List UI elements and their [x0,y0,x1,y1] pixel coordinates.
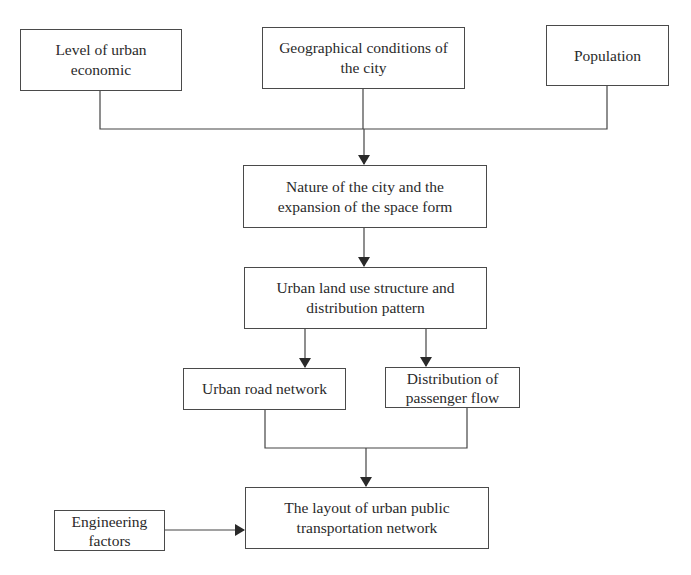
node-urban-road-network: Urban road network [183,368,346,410]
node-label: Urban road network [202,379,327,399]
node-label: The layout of urban public transportatio… [252,498,482,538]
node-nature-of-city: Nature of the city and the expansion of … [243,165,487,228]
node-label: Engineering factors [61,512,158,550]
merge-line-bottom [265,407,467,448]
node-geographical-conditions: Geographical conditions of the city [262,27,465,89]
node-label: Population [574,46,641,66]
node-label: Geographical conditions of the city [269,38,458,78]
merge-line-top [100,85,607,129]
node-engineering-factors: Engineering factors [54,510,165,551]
node-label: Nature of the city and the expansion of … [250,177,480,217]
node-public-transport-layout: The layout of urban public transportatio… [245,487,489,549]
node-urban-economic: Level of urban economic [20,29,182,91]
node-label: Distribution of passenger flow [392,369,513,407]
node-population: Population [546,25,669,86]
node-label: Urban land use structure and distributio… [251,278,480,318]
node-land-use-structure: Urban land use structure and distributio… [244,267,487,329]
node-label: Level of urban economic [27,40,175,80]
node-passenger-flow: Distribution of passenger flow [385,367,520,408]
